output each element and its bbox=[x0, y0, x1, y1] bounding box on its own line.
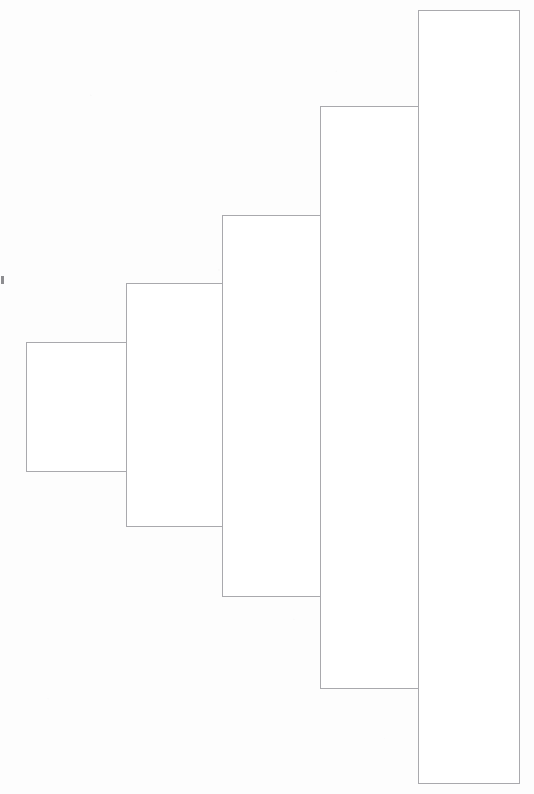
bars-group bbox=[27, 11, 520, 784]
bar-1[interactable] bbox=[27, 343, 128, 472]
bar-3[interactable] bbox=[223, 216, 322, 597]
bar-4[interactable] bbox=[321, 107, 420, 689]
chart-page bbox=[0, 0, 534, 794]
bar-chart bbox=[0, 0, 534, 794]
marks-group bbox=[1, 276, 4, 284]
bar-2[interactable] bbox=[127, 284, 223, 527]
left-edge-tick-mark bbox=[1, 276, 4, 284]
bar-5[interactable] bbox=[419, 11, 520, 784]
